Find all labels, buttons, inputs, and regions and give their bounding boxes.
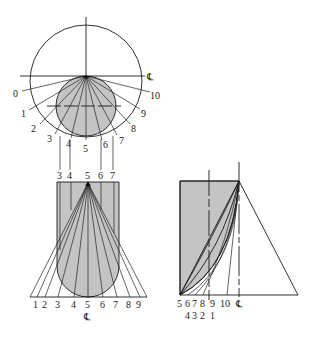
centerline-label: ℄ bbox=[146, 71, 154, 82]
bottom-label-4: 4 bbox=[71, 299, 76, 310]
front-view: 3 4 5 6 7 1 2 3 4 5 6 7 8 9 ℄ bbox=[30, 170, 147, 322]
label-6: 6 bbox=[103, 139, 108, 150]
front-centerline-label: ℄ bbox=[83, 311, 91, 322]
tl-label-4: 4 bbox=[185, 310, 190, 321]
tl-label-9: 9 bbox=[210, 298, 215, 309]
tl-label-5: 5 bbox=[177, 298, 182, 309]
bottom-label-2: 2 bbox=[42, 299, 47, 310]
tl-labels-row2: 4 3 2 1 bbox=[185, 310, 215, 321]
bottom-label-5: 5 bbox=[85, 299, 90, 310]
tl-label-1: 1 bbox=[210, 310, 215, 321]
label-2: 2 bbox=[31, 123, 36, 134]
front-top-labels: 3 4 5 6 7 bbox=[57, 170, 115, 181]
tl-label-2: 2 bbox=[200, 310, 205, 321]
label-9: 9 bbox=[141, 108, 146, 119]
tl-label-6: 6 bbox=[185, 298, 190, 309]
diagram-canvas: 0 1 2 3 4 5 6 7 8 9 10 ℄ bbox=[0, 0, 313, 338]
top-view: 0 1 2 3 4 5 6 7 8 9 10 ℄ bbox=[13, 17, 160, 170]
label-7: 7 bbox=[119, 135, 124, 146]
bottom-label-3: 3 bbox=[55, 299, 60, 310]
label-10: 10 bbox=[150, 90, 160, 101]
top-label-4: 4 bbox=[67, 170, 72, 181]
bottom-label-1: 1 bbox=[33, 299, 38, 310]
label-3: 3 bbox=[47, 133, 52, 144]
front-bottom-labels: 1 2 3 4 5 6 7 8 9 bbox=[33, 299, 141, 310]
label-8: 8 bbox=[131, 123, 136, 134]
label-0: 0 bbox=[13, 88, 18, 99]
tl-label-3: 3 bbox=[192, 310, 197, 321]
top-label-6: 6 bbox=[98, 170, 103, 181]
tl-label-7: 7 bbox=[192, 298, 197, 309]
top-label-5: 5 bbox=[85, 170, 90, 181]
bottom-label-9: 9 bbox=[136, 299, 141, 310]
label-5: 5 bbox=[83, 143, 88, 154]
top-label-7: 7 bbox=[110, 170, 115, 181]
bottom-label-7: 7 bbox=[113, 299, 118, 310]
top-label-3: 3 bbox=[57, 170, 62, 181]
bottom-label-8: 8 bbox=[126, 299, 131, 310]
tl-hypotenuse bbox=[239, 181, 298, 295]
tl-centerline-label: ℄ bbox=[235, 298, 243, 309]
true-length-diagram: 5 6 7 8 9 10 ℄ 4 3 2 1 bbox=[177, 162, 298, 321]
tl-label-8: 8 bbox=[200, 298, 205, 309]
bottom-label-6: 6 bbox=[100, 299, 105, 310]
label-1: 1 bbox=[21, 108, 26, 119]
tl-labels-row1: 5 6 7 8 9 10 ℄ bbox=[177, 298, 243, 309]
tl-label-10: 10 bbox=[220, 298, 230, 309]
